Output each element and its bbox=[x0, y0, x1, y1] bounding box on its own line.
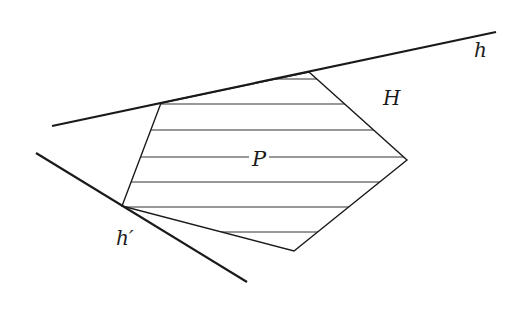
line-h bbox=[52, 32, 496, 126]
label-h-prime: h′ bbox=[116, 228, 133, 248]
diagram-canvas: h H P h′ bbox=[0, 0, 525, 310]
label-polygon-P: P bbox=[249, 149, 269, 170]
label-halfspace-H: H bbox=[383, 88, 400, 108]
line-h-prime bbox=[36, 153, 247, 282]
label-h: h bbox=[474, 40, 487, 60]
